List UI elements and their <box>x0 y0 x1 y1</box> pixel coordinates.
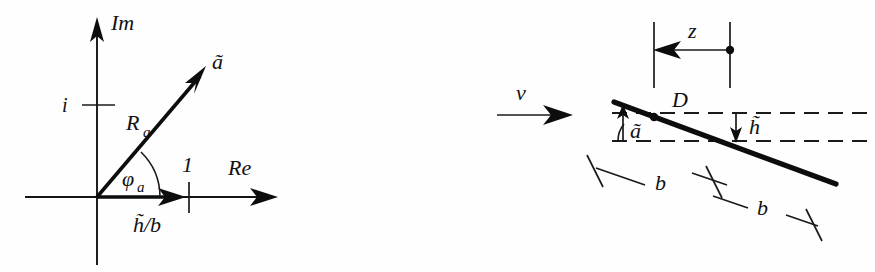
chord-2-label: b <box>757 195 768 220</box>
right-panel-group: z v D ã h̃ <box>497 18 872 241</box>
offset-h-label: h̃ <box>749 114 760 139</box>
angle-label-group: φ a <box>122 166 145 195</box>
vector-magnitude-label-group: R a <box>125 110 151 140</box>
z-origin-dot <box>726 46 734 54</box>
chord-1-label: b <box>655 170 666 195</box>
projection-label: h̃/b <box>133 212 161 237</box>
vector-a-label-group: ã <box>212 49 223 74</box>
point-d-label: D <box>671 87 688 112</box>
chord-2-dimension-line <box>713 196 748 208</box>
vector-magnitude-label-base: R <box>125 110 140 135</box>
real-axis-label: Re <box>227 155 251 180</box>
diagram-svg-canvas: Im Re i 1 ã R a φ a h̃/b <box>0 0 875 272</box>
point-d-dot <box>650 113 658 121</box>
vector-magnitude-label-sub: a <box>143 124 151 140</box>
real-unit-label: 1 <box>182 152 193 177</box>
angle-label-sub: a <box>137 179 145 195</box>
angle-label-base: φ <box>122 166 134 191</box>
figure-root: Im Re i 1 ã R a φ a h̃/b <box>0 0 875 272</box>
inclined-plate-line <box>614 102 836 184</box>
angle-a-label: ã <box>630 118 641 143</box>
chord-1-tick-left <box>587 155 603 187</box>
chord-1-dimension-line <box>596 168 645 185</box>
left-panel-group: Im Re i 1 ã R a φ a h̃/b <box>25 10 278 265</box>
imaginary-axis-label: Im <box>110 10 134 35</box>
chord-2-tick-right <box>806 209 822 241</box>
z-label: z <box>687 18 697 43</box>
vector-a-label-base: ã <box>212 49 223 74</box>
velocity-label: v <box>516 80 526 105</box>
imaginary-unit-label: i <box>62 94 68 116</box>
